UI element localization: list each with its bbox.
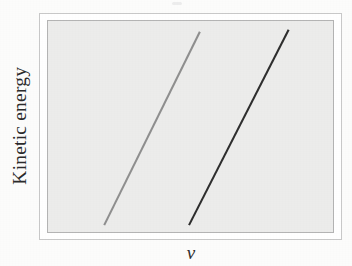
data-line-metal-1	[104, 32, 200, 225]
plot-frame-outer	[39, 13, 342, 240]
x-axis-label-text: ν	[187, 243, 195, 262]
plot-area	[48, 21, 333, 232]
photoelectric-figure: Kinetic energy ν	[0, 0, 352, 266]
plot-canvas	[48, 21, 333, 232]
plot-frame-inner	[47, 20, 334, 233]
y-axis-label: Kinetic energy	[0, 12, 40, 240]
data-line-metal-2	[189, 30, 289, 225]
x-axis-label: ν	[40, 238, 342, 266]
scan-artifact-speck	[172, 2, 182, 5]
y-axis-label-text: Kinetic energy	[10, 67, 30, 185]
